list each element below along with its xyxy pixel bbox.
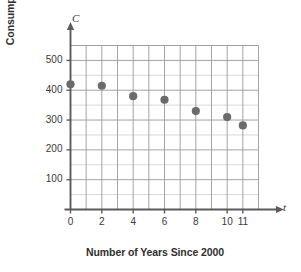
axis-lines xyxy=(65,22,285,213)
major-gridlines xyxy=(71,46,259,210)
x-axis-symbol-t: t xyxy=(283,201,286,213)
x-axis-title: Number of Years Since 2000 xyxy=(40,246,270,258)
x-tick-label-2: 2 xyxy=(92,216,112,227)
y-tick-label-200: 200 xyxy=(33,143,63,154)
plot-canvas xyxy=(0,0,301,272)
x-tick-label-4: 4 xyxy=(123,216,143,227)
y-tick-label-400: 400 xyxy=(33,84,63,95)
data-point xyxy=(223,113,231,121)
data-point xyxy=(192,107,200,115)
scatter-plot-figure: Consumption of Cigarettes (billions) C t… xyxy=(0,0,301,272)
x-tick-label-0: 0 xyxy=(61,216,81,227)
x-tick-label-6: 6 xyxy=(155,216,175,227)
x-tick-label-11: 11 xyxy=(233,216,253,227)
axis-ticks xyxy=(67,60,243,213)
data-point xyxy=(129,92,137,100)
data-point xyxy=(239,121,247,129)
y-tick-label-300: 300 xyxy=(33,114,63,125)
x-tick-label-8: 8 xyxy=(186,216,206,227)
data-point xyxy=(160,96,168,104)
y-axis-symbol-C: C xyxy=(72,12,79,24)
y-tick-label-100: 100 xyxy=(33,173,63,184)
data-point xyxy=(66,80,74,88)
y-tick-label-500: 500 xyxy=(33,54,63,65)
data-point xyxy=(98,82,106,90)
